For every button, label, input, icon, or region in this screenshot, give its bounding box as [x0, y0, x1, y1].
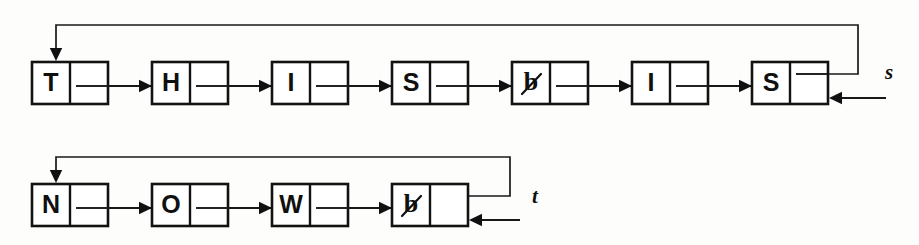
list-s-node-5-char: I: [648, 68, 655, 96]
list-t-node-1: O: [152, 184, 228, 226]
list-s-node-1-char: H: [162, 68, 180, 96]
list-t-node-2: W: [272, 184, 348, 226]
list-t-link-1-2: [228, 202, 272, 214]
linked-list-canvas: T H I: [0, 0, 919, 245]
linked-list-figure: T H I: [0, 0, 919, 245]
list-s-node-3: S: [392, 62, 468, 104]
list-t-node-0-char: N: [42, 190, 60, 218]
list-s-node-0: T: [32, 62, 108, 104]
list-s-pointer-label: s: [884, 60, 893, 84]
list-s-node-2-char: I: [288, 68, 295, 96]
list-t-link-2-3: [348, 202, 392, 214]
list-s-node-4: b: [512, 62, 588, 104]
list-s-link-5-6: [708, 80, 752, 92]
list-t-node-2-char: W: [279, 190, 303, 218]
list-s-link-4-5: [588, 80, 632, 92]
list-s-link-3-4: [468, 80, 512, 92]
list-t-node-1-char: O: [161, 190, 180, 218]
list-s-node-6: S: [752, 62, 828, 104]
list-s-node-6-char: S: [763, 68, 780, 96]
list-t-link-0-1: [108, 202, 152, 214]
list-s-link-2-3: [348, 80, 392, 92]
list-t-node-3: b: [392, 184, 468, 226]
list-s-head-pointer: [829, 92, 886, 104]
list-s-node-4-char: b: [524, 67, 538, 96]
list-s-node-5: I: [632, 62, 708, 104]
list-s-group: T H I: [32, 25, 893, 104]
list-s-node-1: H: [152, 62, 228, 104]
list-s-link-0-1: [108, 80, 152, 92]
list-t-head-pointer: [469, 214, 520, 226]
list-s-link-1-2: [228, 80, 272, 92]
list-s-node-0-char: T: [43, 68, 58, 96]
list-t-node-0: N: [32, 184, 108, 226]
list-t-node-3-char: b: [404, 189, 418, 218]
list-s-node-3-char: S: [403, 68, 420, 96]
list-t-group: N O W: [32, 157, 539, 226]
list-s-node-2: I: [272, 62, 348, 104]
list-t-pointer-label: t: [532, 184, 539, 208]
